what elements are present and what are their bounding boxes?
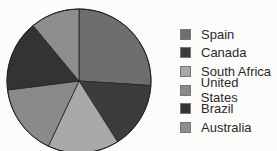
legend-swatch	[180, 122, 191, 133]
legend-item-australia: Australia	[180, 118, 277, 137]
legend-swatch	[180, 103, 191, 114]
pie-svg	[0, 0, 160, 151]
legend-label: Spain	[201, 27, 234, 42]
legend-swatch	[180, 85, 191, 96]
legend-swatch	[180, 29, 191, 40]
pie-chart	[0, 0, 160, 151]
legend: Spain Canada South Africa United States …	[180, 25, 277, 137]
legend-item-spain: Spain	[180, 25, 277, 44]
legend-label: Australia	[201, 120, 252, 135]
pie-slice-spain	[79, 9, 151, 86]
legend-swatch	[180, 66, 191, 77]
legend-item-canada: Canada	[180, 44, 277, 63]
legend-swatch	[180, 47, 191, 58]
legend-label: Canada	[201, 45, 247, 60]
legend-item-united-states: United States	[180, 81, 277, 100]
legend-label: Brazil	[201, 101, 234, 116]
